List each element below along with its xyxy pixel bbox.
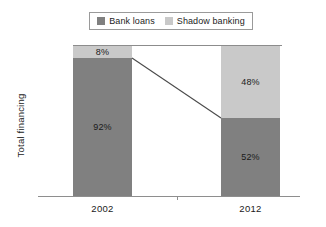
x-axis-line xyxy=(38,196,300,197)
x-axis-tick xyxy=(177,196,178,200)
bar-2002-segment-bank-loans: 92% xyxy=(73,58,132,196)
bar-2002-shadow-banking-value: 8% xyxy=(96,47,109,57)
x-tick-label-2002: 2002 xyxy=(73,203,132,214)
bar-2012-segment-shadow-banking: 48% xyxy=(221,46,280,118)
bar-2012-segment-bank-loans: 52% xyxy=(221,118,280,196)
bar-2012-bank-loans-value: 52% xyxy=(241,152,260,162)
plot-area: 8% 92% 48% 52% 2002 2012 Total financing xyxy=(0,0,326,227)
bar-2012-shadow-banking-value: 48% xyxy=(241,77,260,87)
bar-2002-bank-loans-value: 92% xyxy=(93,122,112,132)
bar-2002-segment-shadow-banking: 8% xyxy=(73,46,132,58)
x-tick-label-2012: 2012 xyxy=(221,203,280,214)
y-axis-title: Total financing xyxy=(15,76,26,176)
chart-container: Bank loans Shadow banking 8% 92% 48% 52% xyxy=(0,0,326,227)
